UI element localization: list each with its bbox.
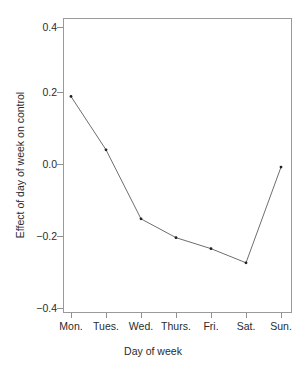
series-point (105, 148, 108, 151)
x-tick-mark (246, 313, 247, 318)
y-tick-label: 0.0 (42, 159, 57, 170)
x-tick-label: Thurs. (161, 320, 191, 332)
x-tick-label: Mon. (59, 320, 82, 332)
x-tick-mark (281, 313, 282, 318)
x-tick-mark (106, 313, 107, 318)
series-points-group (70, 95, 283, 264)
y-tick-1: 0.2 (0, 87, 57, 98)
x-tick-label: Tues. (93, 320, 119, 332)
series-point (245, 261, 248, 264)
series-point (175, 236, 178, 239)
chart-figure: 0.4 0.2 0.0 −0.2 −0.4 Mon. Tues. (0, 0, 306, 377)
series-plot (63, 18, 292, 313)
y-tick-label: −0.2 (36, 231, 57, 242)
x-tick-mark (211, 313, 212, 318)
y-tick-label: −0.4 (36, 303, 57, 314)
series-point (210, 247, 213, 250)
y-tick-4: −0.4 (0, 303, 57, 314)
y-axis-title: Effect of day of week on control (12, 18, 28, 313)
x-tick-label: Sat. (237, 320, 256, 332)
y-tick-0: 0.4 (0, 22, 57, 33)
y-tick-3: −0.2 (0, 231, 57, 242)
x-tick-label: Fri. (203, 320, 218, 332)
series-point (70, 95, 73, 98)
y-tick-label: 0.2 (42, 87, 57, 98)
y-tick-label: 0.4 (42, 22, 57, 33)
x-tick-mark (176, 313, 177, 318)
x-tick-mark (141, 313, 142, 318)
x-tick-mark (71, 313, 72, 318)
y-tick-2: 0.0 (0, 159, 57, 170)
x-tick-label: Sun. (270, 320, 292, 332)
x-tick-label: Wed. (129, 320, 153, 332)
series-point (140, 217, 143, 220)
series-point (280, 166, 283, 169)
x-axis-title: Day of week (0, 345, 306, 357)
